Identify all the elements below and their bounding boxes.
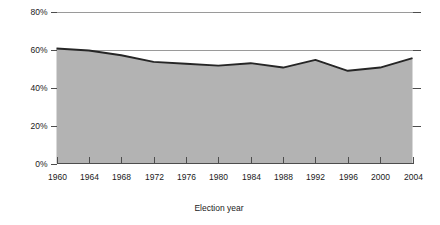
y-axis-label-60%: 60%	[30, 45, 47, 55]
y-axis-label-0%: 0%	[35, 159, 48, 169]
x-axis-label-1976: 1976	[177, 172, 196, 182]
x-axis-label-1960: 1960	[48, 172, 67, 182]
x-axis-label-1980: 1980	[209, 172, 228, 182]
y-axis-label-20%: 20%	[30, 121, 47, 131]
x-axis-label-1992: 1992	[306, 172, 325, 182]
x-axis-label-1988: 1988	[274, 172, 293, 182]
area-chart: 0%20%40%60%80% 1960196419681972197619801…	[0, 0, 440, 225]
y-axis-label-80%: 80%	[30, 7, 47, 17]
x-axis-label-1968: 1968	[112, 172, 131, 182]
x-axis-label-2004: 2004	[404, 172, 423, 182]
x-axis-title: Election year	[194, 203, 243, 213]
x-axis-label-1964: 1964	[80, 172, 99, 182]
x-axis-label-1984: 1984	[242, 172, 261, 182]
chart-container: 0%20%40%60%80% 1960196419681972197619801…	[0, 0, 440, 225]
y-axis-label-40%: 40%	[30, 83, 47, 93]
x-axis-label-1972: 1972	[145, 172, 164, 182]
x-axis-label-2000: 2000	[371, 172, 390, 182]
x-axis-label-1996: 1996	[339, 172, 358, 182]
